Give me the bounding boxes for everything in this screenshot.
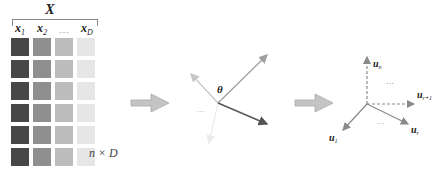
vector-arrow — [218, 55, 267, 103]
basis-panel: un ur+1 ur u1 … … — [329, 57, 432, 144]
vector-ellipsis: … — [197, 105, 205, 114]
label-ur: ur — [411, 124, 420, 136]
angle-label: θ — [217, 83, 223, 95]
vector-arrow — [218, 103, 267, 124]
transform-arrow-2 — [295, 94, 333, 112]
basis-vector-ur — [367, 104, 408, 124]
vector-panel: θ … — [191, 55, 267, 143]
label-ur1: ur+1 — [417, 89, 432, 101]
vector-arrow — [209, 103, 218, 143]
transform-arrow-1 — [131, 94, 169, 112]
diagram-canvas: θ … un ur+1 ur u1 … … — [0, 0, 439, 176]
label-un: un — [373, 58, 382, 70]
basis-ellipsis-top: … — [386, 77, 394, 86]
basis-ellipsis-bottom: … — [377, 117, 385, 126]
label-u1: u1 — [329, 132, 338, 144]
vector-arrow — [191, 74, 218, 103]
basis-vector-u1 — [343, 104, 367, 130]
